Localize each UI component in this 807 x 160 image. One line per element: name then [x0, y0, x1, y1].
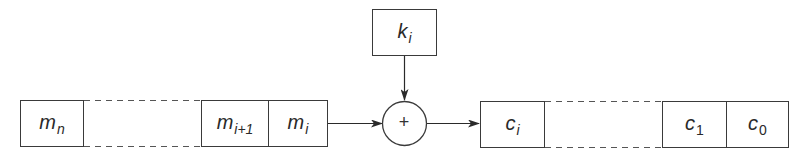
plaintext-cell-mi1: mi+1	[201, 100, 269, 147]
ciphertext-gap-dashes	[545, 102, 662, 148]
plaintext-gap-dashes	[84, 101, 201, 147]
cell-label-ci: ci	[505, 112, 519, 138]
ciphertext-cell-c0: c0	[727, 101, 789, 148]
plaintext-cell-mn: mn	[20, 100, 84, 147]
cell-label-mi: mi	[288, 111, 309, 137]
cell-label-c1: c1	[685, 112, 704, 138]
key-box: ki	[372, 9, 437, 56]
cell-label-c0: c0	[748, 112, 767, 138]
cell-label-mn: mn	[39, 111, 64, 137]
ciphertext-cell-c1: c1	[662, 101, 727, 148]
key-label: ki	[397, 20, 411, 46]
ciphertext-cell-ci: ci	[480, 101, 545, 148]
combiner-plus-symbol: +	[394, 112, 414, 133]
plaintext-cell-mi: mi	[269, 100, 328, 147]
cell-label-mi1: mi+1	[217, 111, 254, 137]
